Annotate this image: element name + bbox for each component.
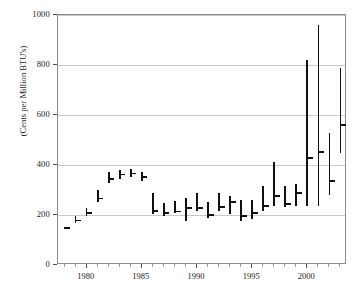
data-range-bar — [340, 68, 342, 153]
data-range-bar — [318, 25, 320, 206]
x-axis-tick-label: 1985 — [132, 271, 149, 281]
gridline — [58, 15, 345, 16]
data-close-tick — [87, 212, 92, 214]
x-axis-tick-mark-major — [86, 264, 87, 268]
x-axis-tick-mark-minor — [152, 264, 153, 267]
x-axis-tick-mark-major — [306, 264, 307, 268]
x-axis-tick-mark-major — [251, 264, 252, 268]
x-axis-tick-mark-minor — [163, 264, 164, 267]
data-close-tick — [109, 178, 114, 180]
data-range-bar — [251, 200, 253, 219]
x-axis-tick-label: 1990 — [187, 271, 204, 281]
data-close-tick — [187, 207, 192, 209]
x-axis: 19801985199019952000 — [57, 264, 346, 283]
x-axis-tick-mark-minor — [130, 264, 131, 267]
x-axis-tick-mark-minor — [284, 264, 285, 267]
data-close-tick — [286, 203, 291, 205]
y-axis-tick-label: 800 — [37, 59, 50, 69]
x-axis-tick-mark-minor — [229, 264, 230, 267]
chart-container: (Cents per Million BTU's) 02004006008001… — [0, 0, 355, 283]
x-axis-tick-mark-major — [141, 264, 142, 268]
y-axis-tick-label: 600 — [37, 109, 50, 119]
plot-area — [57, 14, 346, 264]
x-axis-tick-mark-minor — [75, 264, 76, 267]
data-range-bar — [185, 198, 187, 221]
data-close-tick — [231, 201, 236, 203]
data-close-tick — [341, 124, 346, 126]
x-axis-tick-mark-minor — [240, 264, 241, 267]
data-range-bar — [97, 190, 99, 202]
data-close-tick — [275, 195, 280, 197]
y-axis-tick-label: 400 — [37, 159, 50, 169]
data-range-bar — [306, 60, 308, 206]
data-close-tick — [76, 220, 81, 222]
data-close-tick — [98, 198, 103, 200]
y-axis: (Cents per Million BTU's) 02004006008001… — [0, 0, 57, 283]
data-close-tick — [142, 176, 147, 178]
x-axis-tick-label: 1995 — [243, 271, 260, 281]
data-close-tick — [308, 157, 313, 159]
y-axis-tick-label: 200 — [37, 209, 50, 219]
data-close-tick — [253, 212, 258, 214]
data-close-tick — [131, 173, 136, 175]
gridline — [58, 65, 345, 66]
gridline — [58, 165, 345, 166]
x-axis-tick-mark-minor — [295, 264, 296, 267]
x-axis-tick-mark-minor — [328, 264, 329, 267]
x-axis-tick-mark-minor — [64, 264, 65, 267]
data-close-tick — [153, 210, 158, 212]
data-close-tick — [264, 205, 269, 207]
data-range-bar — [229, 196, 231, 214]
data-close-tick — [164, 212, 169, 214]
data-range-bar — [329, 133, 331, 195]
data-range-bar — [262, 186, 264, 211]
x-axis-tick-mark-major — [196, 264, 197, 268]
x-axis-tick-label: 1980 — [77, 271, 94, 281]
data-close-tick — [242, 215, 247, 217]
data-close-tick — [120, 174, 125, 176]
gridline — [58, 115, 345, 116]
y-axis-tick-label: 1000 — [32, 9, 50, 19]
data-close-tick — [209, 214, 214, 216]
x-axis-tick-label: 2000 — [298, 271, 315, 281]
x-axis-tick-mark-minor — [273, 264, 274, 267]
data-close-tick — [65, 227, 70, 229]
y-axis-tick-label: 0 — [46, 259, 50, 269]
x-axis-tick-mark-minor — [97, 264, 98, 267]
x-axis-tick-mark-minor — [108, 264, 109, 267]
x-axis-tick-mark-minor — [119, 264, 120, 267]
data-close-tick — [176, 211, 181, 213]
x-axis-tick-mark-minor — [218, 264, 219, 267]
x-axis-tick-mark-minor — [174, 264, 175, 267]
data-close-tick — [319, 151, 324, 153]
data-range-bar — [295, 184, 297, 206]
gridline — [58, 215, 345, 216]
data-range-bar — [240, 200, 242, 221]
x-axis-tick-mark-minor — [339, 264, 340, 267]
data-range-bar — [218, 193, 220, 211]
data-close-tick — [220, 206, 225, 208]
x-axis-tick-mark-minor — [317, 264, 318, 267]
x-axis-tick-mark-minor — [185, 264, 186, 267]
data-range-bar — [273, 162, 275, 206]
x-axis-tick-mark-minor — [262, 264, 263, 267]
data-close-tick — [330, 180, 335, 182]
x-axis-tick-mark-minor — [207, 264, 208, 267]
data-close-tick — [198, 207, 203, 209]
data-close-tick — [297, 192, 302, 194]
y-axis-title: (Cents per Million BTU's) — [18, 6, 28, 176]
